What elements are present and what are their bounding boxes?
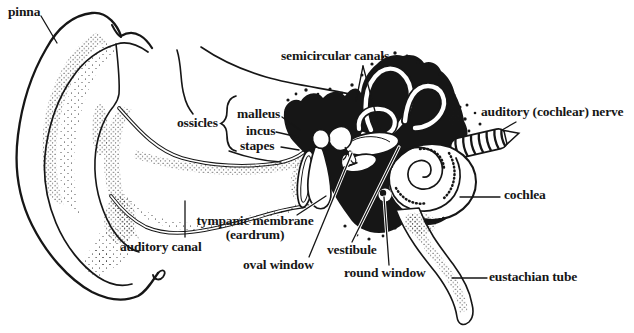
label-cochlea: cochlea [504,188,546,202]
label-tympanic-membrane-line1: tympanic membrane [196,213,313,228]
label-oval-window: oval window [243,258,314,272]
label-eustachian-tube: eustachian tube [489,270,577,284]
label-semicircular-canals: semicircular canals [281,49,389,63]
label-ossicles: ossicles [177,116,218,130]
label-malleus: malleus [237,107,280,121]
label-round-window: round window [344,266,426,280]
label-pinna: pinna [8,5,40,19]
ossicles-brace [221,96,236,151]
label-tympanic-membrane-line2: (eardrum) [226,227,285,242]
label-auditory-canal: auditory canal [120,240,202,254]
label-tympanic-membrane: tympanic membrane (eardrum) [196,214,314,243]
label-stapes: stapes [240,139,274,153]
label-incus: incus [246,124,275,138]
label-auditory-nerve: auditory (cochlear) nerve [481,105,623,119]
label-vestibule: vestibule [327,243,377,257]
ear-anatomy-diagram: pinna semicircular canals ossicles malle… [0,0,634,333]
